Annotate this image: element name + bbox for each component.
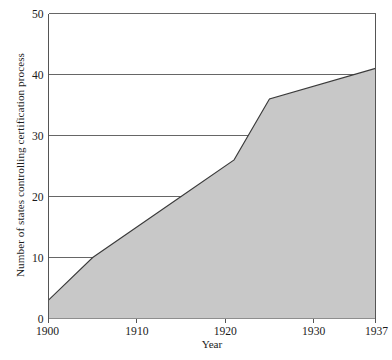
y-tick-label: 50 bbox=[32, 8, 44, 21]
area-fill bbox=[49, 68, 376, 318]
x-tick-label: 1937 bbox=[365, 325, 388, 338]
y-tick-label: 40 bbox=[32, 69, 44, 82]
y-tick-label: 20 bbox=[32, 191, 44, 204]
y-tick-label: 30 bbox=[32, 130, 44, 143]
area-chart-plot: 01020304050 19001910192019301937 bbox=[0, 0, 392, 360]
area-series bbox=[49, 68, 376, 318]
chart-figure: Number of states controlling certificati… bbox=[0, 0, 392, 360]
x-tick-labels: 19001910192019301937 bbox=[36, 325, 388, 338]
y-tick-labels: 01020304050 bbox=[32, 8, 44, 326]
x-tick-marks bbox=[49, 319, 376, 324]
x-tick-label: 1930 bbox=[302, 325, 325, 338]
x-tick-label: 1900 bbox=[36, 325, 59, 338]
x-tick-label: 1920 bbox=[214, 325, 237, 338]
y-tick-label: 10 bbox=[32, 252, 44, 265]
x-tick-label: 1910 bbox=[125, 325, 148, 338]
